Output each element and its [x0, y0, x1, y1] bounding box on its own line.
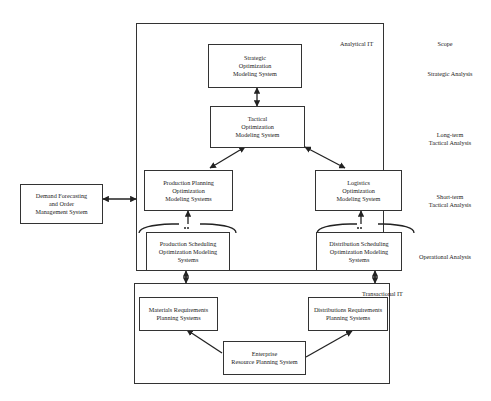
analytical-it-label: Analytical IT	[340, 40, 373, 48]
distribution-scheduling-node: Distribution Scheduling Optimization Mod…	[316, 232, 402, 271]
demand-forecasting-label: Demand Forecasting and Order Management …	[35, 192, 87, 216]
tactical-node-label: Tactical Optimization Modeling System	[236, 115, 280, 139]
logistics-node-label: Logistics Optimization Modeling System	[337, 179, 381, 203]
drp-label: Distributions Requirements Planning Syst…	[314, 306, 382, 322]
erp-label: Enterprise Resource Planning System	[231, 350, 297, 366]
scope-long-term-tactical: Long-term Tactical Analysis	[410, 131, 490, 147]
production-planning-label: Production Planning Optimization Modelin…	[163, 179, 214, 203]
scope-short-term-tactical: Short-term Tactical Analysis	[410, 193, 490, 209]
scope-operational-analysis: Operational Analysis	[400, 253, 490, 261]
erp-node: Enterprise Resource Planning System	[223, 341, 306, 375]
scope-header: Scope	[425, 40, 465, 48]
distribution-scheduling-label: Distribution Scheduling Optimization Mod…	[329, 240, 388, 264]
production-planning-node: Production Planning Optimization Modelin…	[144, 170, 233, 211]
logistics-optimization-node: Logistics Optimization Modeling System	[315, 170, 402, 211]
demand-forecasting-node: Demand Forecasting and Order Management …	[20, 184, 103, 224]
scope-strategic-analysis: Strategic Analysis	[410, 70, 490, 78]
mrp-label: Materials Requirements Planning Systems	[149, 306, 208, 322]
tactical-optimization-node: Tactical Optimization Modeling System	[210, 106, 305, 148]
production-scheduling-node: Production Scheduling Optimization Model…	[146, 232, 230, 271]
production-scheduling-label: Production Scheduling Optimization Model…	[159, 240, 217, 264]
strategic-optimization-node: Strategic Optimization Modeling System	[208, 44, 302, 88]
drp-node: Distributions Requirements Planning Syst…	[308, 297, 388, 331]
strategic-node-label: Strategic Optimization Modeling System	[233, 54, 277, 78]
mrp-node: Materials Requirements Planning Systems	[139, 297, 218, 331]
